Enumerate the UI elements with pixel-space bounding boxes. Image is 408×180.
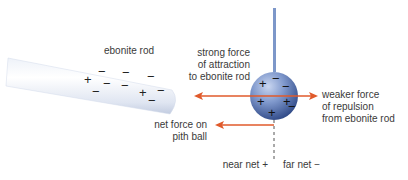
rod-charge-minus: −	[103, 76, 111, 91]
far-side-label: far net −	[283, 159, 320, 171]
rod-charge-plus: +	[139, 85, 147, 100]
rod-charge-minus: −	[157, 83, 165, 98]
rod-charge-minus: −	[148, 93, 156, 108]
ball-charge-plus: +	[268, 105, 276, 120]
rod-charge-minus: −	[147, 69, 155, 84]
rod-charge-minus: −	[121, 78, 129, 93]
ball-charge-minus: −	[288, 99, 296, 114]
diagram-canvas: + − − − − − − + − − + − − + + + −	[0, 0, 408, 180]
ball-charge-plus: +	[259, 76, 267, 91]
near-side-label: near net +	[212, 159, 268, 171]
rod-label: ebonite rod	[104, 45, 154, 57]
net-force-label: net force on pith ball	[145, 119, 207, 143]
rod-charge-plus: +	[84, 72, 92, 87]
pith-ball-string	[273, 8, 276, 72]
ball-charge-minus: −	[272, 71, 280, 86]
repulsion-label: weaker force of repulsion from ebonite r…	[322, 89, 395, 125]
rod-charge-minus: −	[92, 84, 100, 99]
attraction-label: strong force of attraction to ebonite ro…	[182, 47, 250, 83]
ball-charge-minus: −	[282, 79, 290, 94]
